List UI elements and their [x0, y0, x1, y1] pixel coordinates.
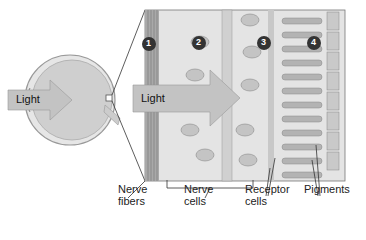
marker-3: 3	[261, 37, 266, 47]
light-label-retina: Light	[141, 92, 165, 104]
marker-4: 4	[311, 37, 316, 47]
light-label-eye: Light	[16, 93, 40, 105]
label-pigments: Pigments	[304, 183, 350, 195]
marker-2: 2	[196, 37, 201, 47]
label-nerve-cells: Nerve cells	[184, 183, 213, 207]
label-receptor-cells: Receptor cells	[245, 183, 290, 207]
marker-1: 1	[146, 38, 151, 48]
label-nerve-fibers: Nerve fibers	[118, 183, 147, 207]
